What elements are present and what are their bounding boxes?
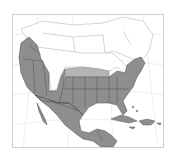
range-map [13,15,163,147]
map-frame [12,14,164,148]
